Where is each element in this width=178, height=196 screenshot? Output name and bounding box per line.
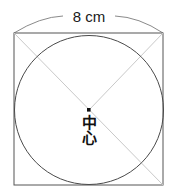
dimension-arc-left — [14, 16, 63, 33]
dimension-label: 8 cm — [73, 8, 106, 25]
center-label-line2: 心 — [82, 129, 97, 147]
geometry-figure: 8 cm 中 心 — [0, 0, 178, 196]
figure-canvas: 8 cm 中 心 — [0, 0, 178, 196]
center-point-dot — [87, 108, 91, 112]
diagonal-half-line — [89, 33, 163, 110]
dimension-arc-right — [115, 16, 163, 33]
